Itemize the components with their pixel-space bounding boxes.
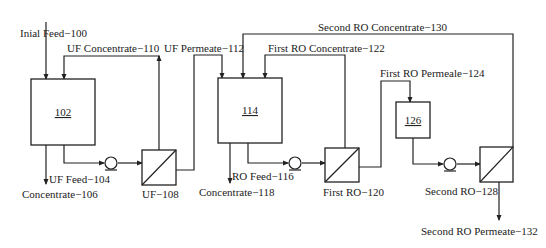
uf-permeate-line xyxy=(176,55,222,170)
first-ro-120-label: First RO−120 xyxy=(323,186,384,198)
tank-102[interactable]: 102 xyxy=(31,79,95,145)
uf-108-label: UF−108 xyxy=(142,188,179,200)
tank-126[interactable]: 126 xyxy=(396,102,430,138)
uf-permeate-label: UF Permeate−112 xyxy=(164,42,244,54)
second-ro-permeate-label: Second RO Permeate−132 xyxy=(421,225,538,237)
concentrate-118-label: Concentrate−118 xyxy=(199,186,275,198)
second-ro-128-membrane[interactable] xyxy=(480,147,513,182)
second-ro-concentrate-label: Second RO Concentrate−130 xyxy=(318,21,448,33)
uf-concentrate-label: UF Concentrate−110 xyxy=(67,42,160,54)
tank-114-label: 114 xyxy=(242,104,259,116)
concentrate-106-label: Concentrate−106 xyxy=(22,188,98,200)
pump-1-icon xyxy=(105,157,117,170)
pump-3-icon xyxy=(444,158,456,171)
first-ro-120-membrane[interactable] xyxy=(325,148,359,182)
ro-feed-label: RO Feed−116 xyxy=(232,170,294,182)
uf-feed-line xyxy=(64,145,104,163)
pump-2-icon xyxy=(289,157,301,170)
first-ro-concentrate-label: First RO Concentrate−122 xyxy=(268,42,385,54)
second-ro-feed-line xyxy=(413,138,443,164)
process-flow-diagram: 102 114 126 Inial Feed−100 UF Concentrat… xyxy=(0,0,546,248)
first-ro-permeate-label: First RO Permeale−124 xyxy=(380,67,485,79)
tank-126-label: 126 xyxy=(405,114,422,126)
tank-102-label: 102 xyxy=(55,106,72,118)
uf-108-membrane[interactable] xyxy=(142,150,176,185)
uf-feed-label: UF Feed−104 xyxy=(49,173,110,185)
tank-114[interactable]: 114 xyxy=(218,78,282,143)
second-ro-128-label: Second RO−128 xyxy=(425,185,499,197)
ro-feed-line xyxy=(248,143,288,163)
initial-feed-label: Inial Feed−100 xyxy=(20,27,87,39)
